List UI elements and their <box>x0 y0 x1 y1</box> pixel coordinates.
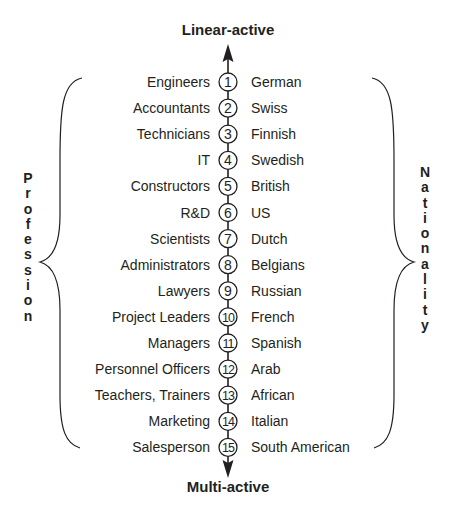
vertical-letter: a <box>418 257 432 272</box>
nationality-label: Swedish <box>251 149 304 171</box>
vertical-letter: f <box>21 217 35 232</box>
diagram-row: ITSwedish <box>0 149 450 171</box>
vertical-letter: n <box>418 241 432 256</box>
profession-label: Marketing <box>10 410 210 432</box>
profession-label: Managers <box>10 332 210 354</box>
nationality-label: Finnish <box>251 123 296 145</box>
diagram-row: AdministratorsBelgians <box>0 254 450 276</box>
vertical-letter: o <box>418 226 432 241</box>
vertical-letter: l <box>418 272 432 287</box>
profession-label: Technicians <box>10 123 210 145</box>
vertical-letter: o <box>21 202 35 217</box>
profession-label: Lawyers <box>10 280 210 302</box>
nationality-label: Italian <box>251 410 288 432</box>
vertical-letter: N <box>418 165 432 180</box>
diagram-row: Project LeadersFrench <box>0 306 450 328</box>
diagram-row: LawyersRussian <box>0 280 450 302</box>
diagram-row: EngineersGerman <box>0 71 450 93</box>
vertical-letter: a <box>418 180 432 195</box>
profession-axis-label: Profession <box>21 171 35 324</box>
diagram-row: TechniciansFinnish <box>0 123 450 145</box>
diagram-row: AccountantsSwiss <box>0 97 450 119</box>
vertical-letter: t <box>418 196 432 211</box>
vertical-letter: P <box>21 171 35 186</box>
diagram-row: ConstructorsBritish <box>0 175 450 197</box>
profession-label: Accountants <box>10 97 210 119</box>
nationality-label: Dutch <box>251 228 288 250</box>
vertical-letter: o <box>21 293 35 308</box>
diagram-row: R&DUS <box>0 202 450 224</box>
vertical-letter: i <box>418 287 432 302</box>
profession-label: Scientists <box>10 228 210 250</box>
profession-label: Personnel Officers <box>10 358 210 380</box>
diagram-row: MarketingItalian <box>0 410 450 432</box>
nationality-label: Arab <box>251 358 281 380</box>
profession-label: R&D <box>10 202 210 224</box>
diagram-row: SalespersonSouth American <box>0 436 450 458</box>
profession-label: Administrators <box>10 254 210 276</box>
diagram-row: Teachers, TrainersAfrican <box>0 384 450 406</box>
diagram-row: ManagersSpanish <box>0 332 450 354</box>
vertical-letter: e <box>21 232 35 247</box>
diagram-row: ScientistsDutch <box>0 228 450 250</box>
vertical-letter: s <box>21 247 35 262</box>
vertical-letter: s <box>21 263 35 278</box>
vertical-letter: i <box>21 278 35 293</box>
profession-label: Engineers <box>10 71 210 93</box>
diagram-row: Personnel OfficersArab <box>0 358 450 380</box>
profession-label: Project Leaders <box>10 306 210 328</box>
vertical-letter: t <box>418 303 432 318</box>
nationality-label: British <box>251 175 290 197</box>
profession-label: Constructors <box>10 175 210 197</box>
vertical-letter: y <box>418 318 432 333</box>
vertical-letter: n <box>21 309 35 324</box>
nationality-label: French <box>251 306 295 328</box>
nationality-label: Russian <box>251 280 302 302</box>
vertical-letter: r <box>21 186 35 201</box>
profession-label: IT <box>10 149 210 171</box>
nationality-label: German <box>251 71 302 93</box>
vertical-letter: i <box>418 211 432 226</box>
profession-label: Teachers, Trainers <box>10 384 210 406</box>
nationality-label: Spanish <box>251 332 302 354</box>
profession-label: Salesperson <box>10 436 210 458</box>
nationality-label: US <box>251 202 270 224</box>
nationality-axis-label: Nationality <box>418 165 432 333</box>
nationality-label: Belgians <box>251 254 305 276</box>
nationality-label: African <box>251 384 295 406</box>
nationality-label: Swiss <box>251 97 288 119</box>
nationality-label: South American <box>251 436 350 458</box>
